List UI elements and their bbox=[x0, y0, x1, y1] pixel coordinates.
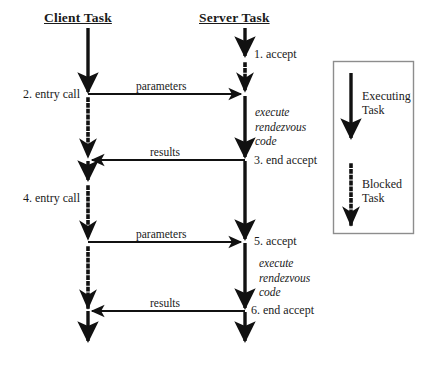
rendezvous-note-1-line-3: code bbox=[255, 134, 306, 149]
sequence-diagram-canvas: Client Task Server Task 1. accept 2. ent… bbox=[0, 0, 428, 372]
legend-blocked-task-line-2: Task bbox=[362, 191, 402, 205]
message-label-parameters-2: parameters bbox=[136, 228, 186, 241]
step-5-accept-label: 5. accept bbox=[254, 235, 297, 249]
message-label-results-1: results bbox=[150, 146, 180, 159]
legend-executing-task-label: Executing Task bbox=[362, 89, 411, 118]
rendezvous-note-2-line-2: rendezvous bbox=[259, 271, 310, 286]
rendezvous-note-2-line-3: code bbox=[259, 285, 310, 300]
legend-graphics bbox=[334, 62, 414, 234]
server-task-title: Server Task bbox=[199, 10, 270, 26]
rendezvous-note-1-line-2: rendezvous bbox=[255, 120, 306, 135]
rendezvous-note-1-line-1: execute bbox=[255, 105, 306, 120]
rendezvous-note-1: execute rendezvous code bbox=[255, 105, 306, 149]
legend-executing-task-line-1: Executing bbox=[362, 89, 411, 103]
message-arrows bbox=[88, 94, 245, 311]
client-task-title: Client Task bbox=[44, 10, 112, 26]
legend-blocked-task-line-1: Blocked bbox=[362, 177, 402, 191]
step-3-end-accept-label: 3. end accept bbox=[254, 154, 317, 168]
legend-executing-task-line-2: Task bbox=[362, 103, 411, 117]
rendezvous-note-2-line-1: execute bbox=[259, 256, 310, 271]
message-label-parameters-1: parameters bbox=[136, 80, 186, 93]
legend-blocked-task-label: Blocked Task bbox=[362, 177, 402, 206]
rendezvous-note-2: execute rendezvous code bbox=[259, 256, 310, 300]
step-4-entry-call-label: 4. entry call bbox=[0, 192, 80, 206]
legend-box-border bbox=[334, 62, 414, 234]
step-6-end-accept-label: 6. end accept bbox=[251, 304, 314, 318]
message-label-results-2: results bbox=[150, 297, 180, 310]
step-1-accept-label: 1. accept bbox=[254, 48, 297, 62]
step-2-entry-call-label: 2. entry call bbox=[0, 88, 80, 102]
